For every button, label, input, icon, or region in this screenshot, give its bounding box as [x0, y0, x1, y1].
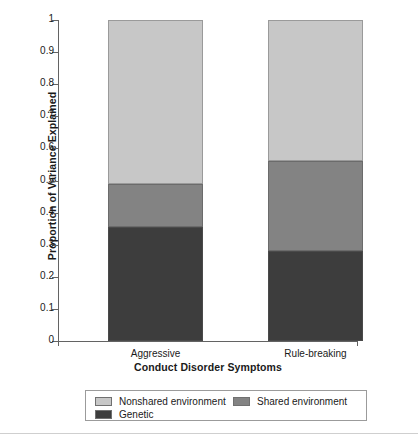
- y-tick-label: 0: [48, 334, 54, 345]
- y-tick-label: 0.4: [40, 206, 54, 217]
- y-tick-label: 0.5: [40, 174, 54, 185]
- x-tick-mark: [58, 341, 59, 346]
- y-tick-label: 0.7: [40, 109, 54, 120]
- y-tick-label: 0.8: [40, 77, 54, 88]
- y-tick-label: 0.2: [40, 270, 54, 281]
- x-axis-title: Conduct Disorder Symptoms: [58, 361, 358, 373]
- plot-area: 10.90.80.70.60.50.40.30.20.10 Aggressive…: [58, 20, 358, 341]
- x-tick-mark: [357, 341, 358, 346]
- legend-item-shared: Shared environment: [233, 396, 347, 407]
- y-tick-label: 0.6: [40, 141, 54, 152]
- legend-label-nonshared: Nonshared environment: [119, 396, 226, 407]
- legend-swatch-nonshared-icon: [95, 397, 112, 406]
- legend-label-genetic: Genetic: [119, 409, 153, 420]
- legend-swatch-shared-icon: [233, 397, 250, 406]
- bar-segment-shared[interactable]: [108, 184, 203, 227]
- y-tick-label: 0.9: [40, 45, 54, 56]
- y-tick-label: 0.1: [40, 302, 54, 313]
- y-tick-label: 0.3: [40, 238, 54, 249]
- bar-segment-nonshared[interactable]: [268, 20, 363, 161]
- y-tick-label: 1: [48, 13, 54, 24]
- legend-box: Nonshared environment Shared environment…: [85, 390, 367, 421]
- legend-label-shared: Shared environment: [257, 396, 347, 407]
- legend-swatch-genetic-icon: [95, 410, 112, 419]
- bar-segment-genetic[interactable]: [268, 251, 363, 341]
- bar-rule-breaking[interactable]: [268, 20, 363, 341]
- page-divider: [0, 433, 418, 434]
- stacked-bar-chart-figure: Proportion of Variance Explained 10.90.8…: [0, 0, 418, 446]
- y-axis-line: [58, 20, 59, 342]
- bar-aggressive[interactable]: [108, 20, 203, 341]
- bar-segment-genetic[interactable]: [108, 227, 203, 341]
- legend-item-genetic: Genetic: [95, 409, 153, 420]
- bar-segment-nonshared[interactable]: [108, 20, 203, 184]
- bar-segment-shared[interactable]: [268, 161, 363, 251]
- legend-item-nonshared: Nonshared environment: [95, 396, 226, 407]
- x-axis-line: [58, 341, 358, 342]
- x-category-label: Aggressive: [86, 348, 226, 359]
- x-category-label: Rule-breaking: [246, 348, 386, 359]
